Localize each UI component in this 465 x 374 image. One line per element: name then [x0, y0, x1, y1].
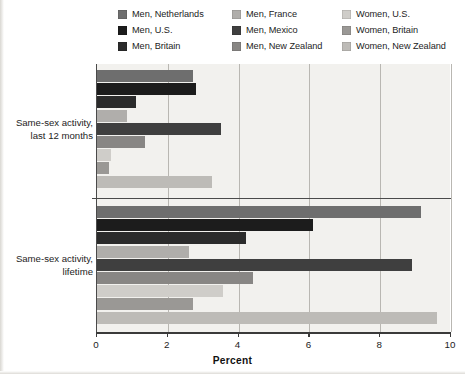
bar: [97, 70, 193, 82]
bar: [97, 312, 437, 324]
legend-swatch-icon: [342, 26, 351, 35]
category-label: Same-sex activity,last 12 months: [1, 117, 93, 142]
legend-item[interactable]: Men, Netherlands: [118, 6, 232, 22]
bar: [97, 176, 212, 188]
legend-swatch-icon: [232, 42, 241, 51]
legend-item[interactable]: Women, U.S.: [342, 6, 458, 22]
legend-item[interactable]: Men, Mexico: [232, 22, 342, 38]
legend-item[interactable]: Women, New Zealand: [342, 38, 458, 54]
gridline: [451, 64, 452, 332]
x-axis-tick-label: 6: [306, 339, 311, 350]
legend-swatch-icon: [118, 26, 127, 35]
plot-area: Same-sex activity,last 12 monthsSame-sex…: [96, 64, 450, 332]
bar: [97, 272, 253, 284]
bar: [97, 83, 196, 95]
bar: [97, 246, 189, 258]
bar: [97, 285, 223, 297]
x-axis-tick-label: 10: [445, 339, 456, 350]
x-axis-tick: [379, 332, 380, 337]
category-label: Same-sex activity,lifetime: [1, 253, 93, 278]
bar: [97, 136, 145, 148]
x-axis-tick-label: 2: [164, 339, 169, 350]
page-edge-shadow-left: [0, 0, 4, 374]
bar: [97, 219, 313, 231]
category-label-line: lifetime: [1, 266, 93, 279]
x-axis-tick-label: 8: [376, 339, 381, 350]
bar: [97, 298, 193, 310]
bar: [97, 232, 246, 244]
legend-item[interactable]: Men, New Zealand: [232, 38, 342, 54]
legend-swatch-icon: [342, 42, 351, 51]
legend-item-label: Men, Netherlands: [132, 9, 204, 19]
legend-swatch-icon: [118, 42, 127, 51]
bar: [97, 149, 111, 161]
x-axis-tick: [167, 332, 168, 337]
bar: [97, 162, 109, 174]
bar: [97, 206, 421, 218]
legend-item-label: Men, New Zealand: [246, 41, 322, 51]
x-axis-tick: [450, 332, 451, 337]
x-axis-line: [96, 332, 450, 334]
legend-item-label: Men, Britain: [132, 41, 180, 51]
legend-item[interactable]: Men, Britain: [118, 38, 232, 54]
legend-swatch-icon: [232, 10, 241, 19]
category-label-line: Same-sex activity,: [1, 117, 93, 130]
chart-legend: Men, NetherlandsMen, FranceWomen, U.S.Me…: [118, 6, 458, 54]
legend-item-label: Women, U.S.: [356, 9, 410, 19]
group-divider-rule: [92, 198, 451, 199]
bar: [97, 123, 221, 135]
x-axis-tick: [238, 332, 239, 337]
legend-swatch-icon: [342, 10, 351, 19]
legend-item[interactable]: Women, Britain: [342, 22, 458, 38]
bar: [97, 259, 412, 271]
legend-item-label: Men, Mexico: [246, 25, 298, 35]
bar: [97, 96, 136, 108]
x-axis-tick-label: 4: [235, 339, 240, 350]
x-axis-tick: [96, 332, 97, 337]
x-axis-tick: [308, 332, 309, 337]
category-label-line: Same-sex activity,: [1, 253, 93, 266]
category-label-line: last 12 months: [1, 130, 93, 143]
legend-item[interactable]: Men, U.S.: [118, 22, 232, 38]
x-axis-tick-label: 0: [93, 339, 98, 350]
legend-swatch-icon: [118, 10, 127, 19]
legend-item-label: Women, New Zealand: [356, 41, 446, 51]
legend-item[interactable]: Men, France: [232, 6, 342, 22]
bar: [97, 110, 127, 122]
chart-root: Men, NetherlandsMen, FranceWomen, U.S.Me…: [0, 0, 465, 374]
legend-swatch-icon: [232, 26, 241, 35]
legend-item-label: Men, U.S.: [132, 25, 172, 35]
x-axis-title: Percent: [0, 355, 465, 366]
legend-item-label: Women, Britain: [356, 25, 418, 35]
legend-item-label: Men, France: [246, 9, 297, 19]
